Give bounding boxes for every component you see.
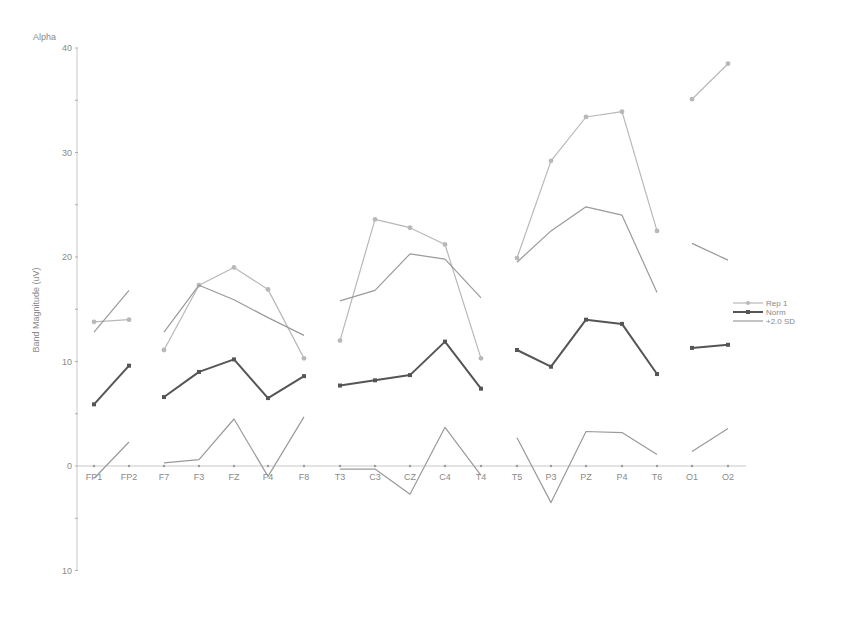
data-point	[232, 357, 236, 361]
series-line	[94, 290, 129, 332]
y-tick-label: 10	[62, 357, 72, 367]
data-point	[232, 265, 237, 270]
x-tick-label: F3	[194, 472, 205, 482]
series-line	[517, 207, 657, 293]
x-tick-label: T3	[335, 472, 346, 482]
data-point	[338, 384, 342, 388]
data-point	[620, 109, 625, 114]
svg-text:Norm: Norm	[766, 308, 786, 317]
x-tick-label: O1	[686, 472, 698, 482]
series-line	[517, 320, 657, 374]
series-line	[94, 320, 129, 322]
data-point	[266, 287, 271, 292]
legend-item-rep1: Rep 1	[733, 299, 788, 308]
data-point	[690, 346, 694, 350]
x-tick-label: T4	[476, 472, 487, 482]
y-axis-label: Band Magnitude (uV)	[31, 267, 41, 352]
data-point	[162, 348, 167, 353]
data-point	[690, 97, 695, 102]
series-line	[692, 345, 728, 348]
x-tick-label: FP1	[86, 472, 103, 482]
chart-title: Alpha	[33, 32, 56, 42]
series-line	[94, 366, 129, 405]
data-point	[549, 365, 553, 369]
series-line	[164, 268, 304, 359]
data-point	[197, 370, 201, 374]
data-point	[162, 395, 166, 399]
legend: Rep 1 Norm +2.0 SD	[733, 299, 795, 326]
legend-item-sd: +2.0 SD	[733, 317, 795, 326]
series-line	[517, 112, 657, 258]
data-point	[408, 225, 413, 230]
x-tick-label: T6	[652, 472, 663, 482]
data-point	[266, 396, 270, 400]
data-point	[479, 387, 483, 391]
series-line	[164, 359, 304, 398]
x-tick-label: C3	[369, 472, 381, 482]
data-point	[549, 158, 554, 163]
x-tick-label: C4	[439, 472, 451, 482]
data-point	[726, 343, 730, 347]
data-point	[302, 356, 307, 361]
y-tick-label: 40	[62, 43, 72, 53]
series-line	[692, 64, 728, 99]
x-tick-label: FP2	[121, 472, 138, 482]
y-tick-label: 0	[67, 461, 72, 471]
series-layer	[92, 61, 731, 502]
data-point	[443, 340, 447, 344]
y-tick-label: 30	[62, 148, 72, 158]
y-tick-label: 20	[62, 252, 72, 262]
series-line-lower	[517, 432, 657, 503]
axes: 40302010010FP1FP2F7F3FZF4F8T3C3CZC4T4T5P…	[62, 43, 746, 576]
x-tick-label: O2	[722, 472, 734, 482]
legend-item-norm: Norm	[733, 308, 786, 317]
data-point	[479, 356, 484, 361]
data-point	[515, 256, 520, 261]
series-line	[340, 219, 481, 358]
data-point	[408, 373, 412, 377]
data-point	[92, 319, 97, 324]
series-line-lower	[340, 427, 481, 494]
data-point	[655, 372, 659, 376]
x-tick-label: P3	[545, 472, 556, 482]
y-tick-label: 10	[62, 566, 72, 576]
data-point	[302, 374, 306, 378]
data-point	[338, 338, 343, 343]
x-tick-label: FZ	[229, 472, 240, 482]
x-tick-label: PZ	[580, 472, 592, 482]
svg-text:+2.0 SD: +2.0 SD	[766, 317, 795, 326]
series-line-lower	[692, 428, 728, 451]
series-line-lower	[164, 417, 304, 477]
svg-text:Rep 1: Rep 1	[766, 299, 788, 308]
series-line	[340, 254, 481, 301]
x-tick-label: F8	[299, 472, 310, 482]
data-point	[584, 115, 589, 120]
series-line	[692, 243, 728, 260]
data-point	[127, 317, 132, 322]
data-point	[127, 364, 131, 368]
data-point	[620, 322, 624, 326]
data-point	[726, 61, 731, 66]
data-point	[443, 242, 448, 247]
x-tick-label: T5	[512, 472, 523, 482]
data-point	[373, 378, 377, 382]
data-point	[515, 348, 519, 352]
x-tick-label: P4	[616, 472, 627, 482]
x-tick-label: CZ	[404, 472, 416, 482]
data-point	[373, 217, 378, 222]
data-point	[584, 318, 588, 322]
data-point	[655, 228, 660, 233]
series-line	[340, 342, 481, 389]
alpha-band-chart: Alpha Band Magnitude (uV) 40302010010FP1…	[0, 0, 841, 626]
data-point	[92, 402, 96, 406]
x-tick-label: F7	[159, 472, 170, 482]
